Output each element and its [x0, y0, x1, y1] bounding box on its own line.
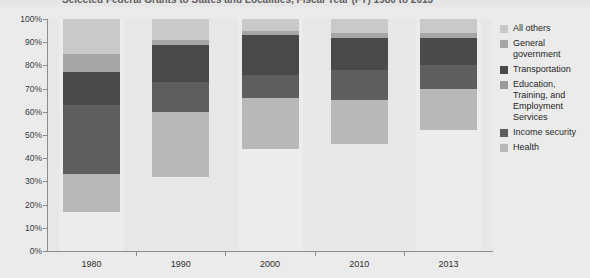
y-tick-mark — [43, 251, 47, 252]
bar-segment[interactable] — [242, 35, 299, 74]
bar-segment[interactable] — [420, 89, 477, 131]
legend-swatch-icon — [500, 40, 508, 48]
y-tick-mark — [43, 112, 47, 113]
stacked-bar[interactable] — [331, 7, 388, 251]
legend-swatch-icon — [500, 129, 508, 137]
legend-item[interactable]: Transportation — [500, 64, 590, 75]
legend-swatch-icon — [500, 25, 508, 33]
legend-swatch-icon — [500, 66, 508, 74]
legend-item-label: All others — [513, 23, 590, 34]
bar-segment[interactable] — [63, 72, 120, 104]
y-tick-mark — [43, 89, 47, 90]
legend-item[interactable]: All others — [500, 23, 590, 34]
bar-segment[interactable] — [331, 100, 388, 144]
x-tick-label: 2013 — [413, 259, 483, 269]
y-tick-label: 10% — [0, 224, 42, 232]
legend-item[interactable]: Education, Training, and Employment Serv… — [500, 79, 590, 123]
bar-segment[interactable] — [242, 19, 299, 31]
chart-figure: 100%90%80%70%60%50%40%30%20%10%0% 198019… — [0, 7, 590, 278]
bar-segment[interactable] — [331, 38, 388, 70]
y-tick-label: 0% — [0, 247, 42, 255]
legend-item-label: Income security — [513, 127, 590, 138]
bar-segment[interactable] — [152, 45, 209, 82]
bar-segment[interactable] — [331, 33, 388, 38]
bar-segment[interactable] — [331, 19, 388, 33]
bar-segment[interactable] — [420, 38, 477, 66]
bar-segment[interactable] — [152, 19, 209, 40]
bar-segment[interactable] — [242, 98, 299, 149]
clipped-title-strip: Selected Federal Grants to States and Lo… — [0, 0, 590, 7]
y-tick-mark — [43, 19, 47, 20]
y-tick-mark — [43, 65, 47, 66]
y-tick-mark — [43, 228, 47, 229]
stacked-bar[interactable] — [420, 7, 477, 251]
bar-segment[interactable] — [242, 75, 299, 98]
y-tick-mark — [43, 42, 47, 43]
bar-segment[interactable] — [152, 112, 209, 177]
stacked-bar[interactable] — [242, 7, 299, 251]
legend-item-label: Health — [513, 142, 590, 153]
x-tick-mark — [315, 252, 316, 256]
y-tick-label: 20% — [0, 201, 42, 209]
y-tick-label: 40% — [0, 154, 42, 162]
bar-segment[interactable] — [63, 105, 120, 175]
legend-item-label: Education, Training, and Employment Serv… — [513, 79, 590, 123]
chart-legend: All othersGeneral governmentTransportati… — [500, 23, 590, 157]
bar-segment[interactable] — [420, 65, 477, 88]
x-tick-mark — [225, 252, 226, 256]
bar-segment[interactable] — [63, 54, 120, 73]
x-tick-label: 1990 — [146, 259, 216, 269]
y-tick-label: 100% — [0, 15, 42, 23]
bar-segment[interactable] — [331, 70, 388, 100]
stacked-bar[interactable] — [63, 7, 120, 251]
x-tick-mark — [404, 252, 405, 256]
legend-swatch-icon — [500, 81, 508, 89]
x-tick-mark — [136, 252, 137, 256]
legend-item[interactable]: General government — [500, 38, 590, 60]
bar-segment[interactable] — [63, 19, 120, 54]
y-axis-line — [47, 19, 48, 252]
y-tick-label: 70% — [0, 85, 42, 93]
y-tick-label: 50% — [0, 131, 42, 139]
x-axis-line — [47, 251, 493, 252]
y-tick-mark — [43, 205, 47, 206]
bar-segment[interactable] — [152, 82, 209, 112]
legend-item-label: General government — [513, 38, 590, 60]
bar-segment[interactable] — [420, 33, 477, 38]
y-tick-label: 60% — [0, 108, 42, 116]
y-tick-label: 90% — [0, 38, 42, 46]
bar-segment[interactable] — [63, 174, 120, 211]
y-tick-label: 80% — [0, 61, 42, 69]
bar-segment[interactable] — [420, 19, 477, 33]
x-tick-label: 2010 — [324, 259, 394, 269]
y-tick-mark — [43, 135, 47, 136]
bar-segment[interactable] — [242, 31, 299, 36]
y-tick-mark — [43, 158, 47, 159]
stacked-bar[interactable] — [152, 7, 209, 251]
chart-title: Selected Federal Grants to States and Lo… — [62, 0, 433, 5]
bar-segment[interactable] — [152, 40, 209, 45]
legend-item[interactable]: Health — [500, 142, 590, 153]
x-tick-label: 1980 — [57, 259, 127, 269]
legend-swatch-icon — [500, 144, 508, 152]
y-tick-label: 30% — [0, 177, 42, 185]
x-tick-label: 2000 — [235, 259, 305, 269]
legend-item-label: Transportation — [513, 64, 590, 75]
y-tick-mark — [43, 181, 47, 182]
legend-item[interactable]: Income security — [500, 127, 590, 138]
